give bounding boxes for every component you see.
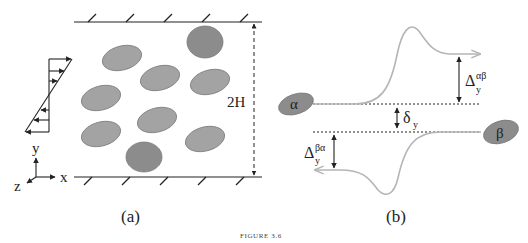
panel-a: 2H: [14, 14, 262, 226]
y-axis-label: y: [32, 140, 40, 156]
particle: [183, 122, 228, 156]
panel-a-label: (a): [121, 207, 140, 226]
channel-height-dimension: 2H: [227, 24, 254, 175]
svg-text:y: y: [413, 119, 418, 130]
particle: [135, 103, 180, 137]
svg-text:Δ: Δ: [465, 72, 475, 89]
bottom-wall: [74, 177, 262, 185]
coordinate-axes: [27, 158, 55, 183]
particle: [187, 26, 223, 58]
particle: [79, 117, 124, 151]
delta-alpha-beta-label: Δ αβ y: [465, 70, 486, 95]
panel-b: α β Δ αβ y δ y Δ βα y (b): [276, 27, 522, 226]
figure-canvas: 2H: [0, 0, 528, 243]
particle-beta-label: β: [496, 125, 504, 141]
svg-text:αβ: αβ: [476, 70, 486, 81]
svg-text:δ: δ: [403, 109, 411, 126]
particle: [188, 65, 233, 99]
shear-profile: [25, 59, 72, 132]
svg-text:y: y: [315, 155, 320, 166]
z-axis-label: z: [14, 178, 21, 194]
channel-height-label: 2H: [227, 94, 246, 110]
particle: [79, 81, 124, 115]
particle: [126, 142, 162, 172]
svg-text:y: y: [476, 84, 481, 95]
particle: [138, 61, 183, 95]
offset-label: δ y: [403, 109, 418, 130]
figure-caption: FIGURE 3.6: [240, 232, 282, 240]
svg-text:Δ: Δ: [304, 144, 314, 161]
x-axis-label: x: [60, 169, 68, 185]
particle-alpha-label: α: [290, 96, 298, 112]
particle: [100, 41, 145, 75]
top-wall: [74, 14, 262, 22]
particles: [79, 26, 233, 172]
delta-beta-alpha-label: Δ βα y: [304, 142, 326, 166]
svg-text:βα: βα: [315, 142, 326, 153]
panel-b-label: (b): [386, 207, 406, 226]
beta-trajectory: [315, 132, 481, 194]
alpha-trajectory: [313, 27, 480, 104]
